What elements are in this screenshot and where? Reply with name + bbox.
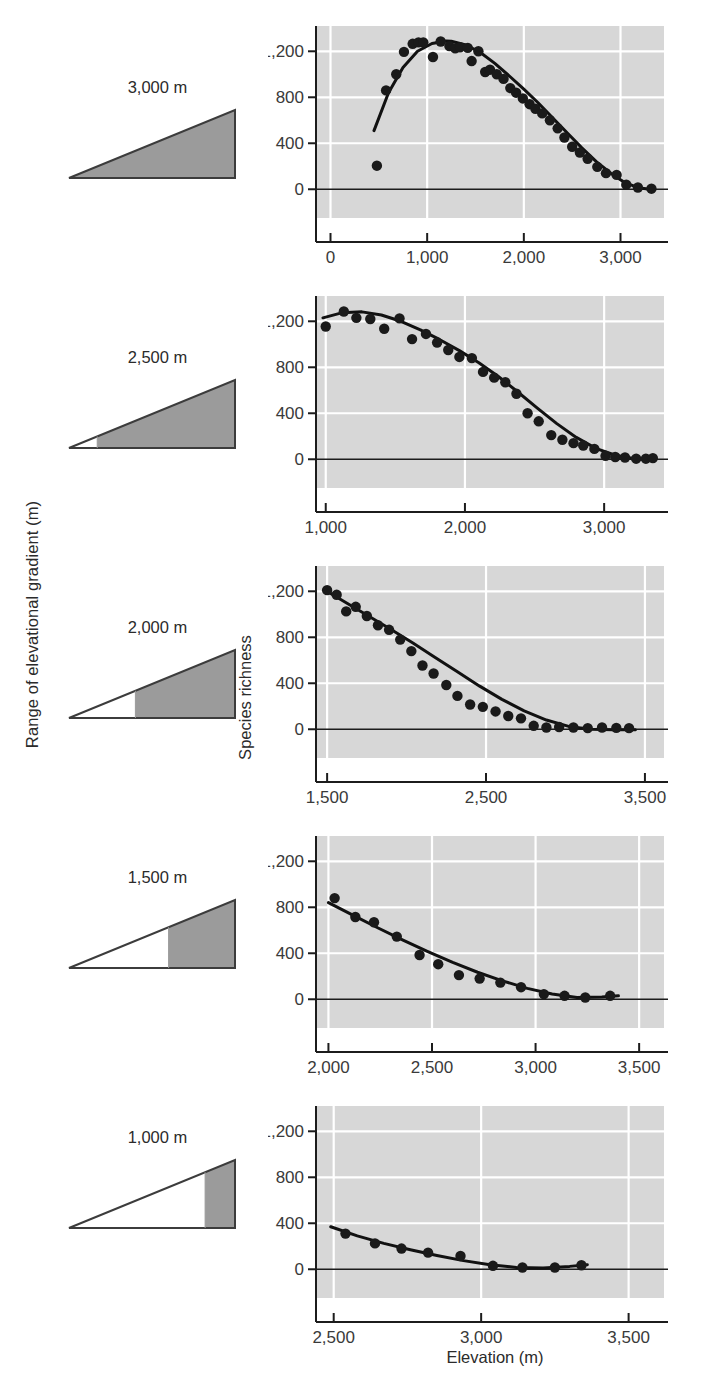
data-point bbox=[418, 37, 428, 47]
data-point bbox=[529, 721, 539, 731]
data-point bbox=[648, 453, 658, 463]
y-axis-tick-label: 0 bbox=[295, 450, 304, 469]
data-point bbox=[517, 1262, 527, 1272]
data-point bbox=[350, 912, 360, 922]
data-point bbox=[414, 950, 424, 960]
chart-panel-2000: 04008001,2001,5002,5003,500 bbox=[268, 550, 668, 808]
data-point bbox=[373, 620, 383, 630]
y-axis-tick-label: 0 bbox=[295, 1260, 304, 1279]
x-axis-tick-label: 0 bbox=[326, 248, 335, 267]
data-point bbox=[406, 646, 416, 656]
data-point bbox=[478, 702, 488, 712]
data-point bbox=[537, 108, 547, 118]
gradient-icon-1500: 1,500 m bbox=[55, 868, 260, 988]
data-point bbox=[500, 377, 510, 387]
y-axis-tick-label: 1,200 bbox=[268, 312, 304, 331]
x-axis-tick-label: 1,000 bbox=[406, 248, 449, 267]
y-axis-tick-label: 1,200 bbox=[268, 42, 304, 61]
data-point bbox=[365, 314, 375, 324]
figure-root: Range of elevational gradient (m) Specie… bbox=[0, 0, 707, 1387]
data-point bbox=[576, 1260, 586, 1270]
data-point bbox=[534, 416, 544, 426]
triangle-diagram-1500 bbox=[55, 890, 260, 980]
data-point bbox=[321, 321, 331, 331]
y-axis-tick-label: 0 bbox=[295, 720, 304, 739]
data-point bbox=[391, 69, 401, 79]
y-axis-tick-label: 400 bbox=[276, 134, 304, 153]
y-axis-tick-label: 1,200 bbox=[268, 852, 304, 871]
data-point bbox=[362, 611, 372, 621]
data-point bbox=[329, 893, 339, 903]
data-point bbox=[516, 982, 526, 992]
gradient-icon-label-1000: 1,000 m bbox=[55, 1128, 260, 1147]
x-axis-tick-label: 2,000 bbox=[503, 248, 546, 267]
data-point bbox=[351, 602, 361, 612]
data-point bbox=[516, 713, 526, 723]
x-axis-tick-label: 3,000 bbox=[599, 248, 642, 267]
gradient-icon-label-2500: 2,500 m bbox=[55, 348, 260, 367]
data-point bbox=[559, 991, 569, 1001]
data-point bbox=[407, 334, 417, 344]
data-point bbox=[392, 931, 402, 941]
data-point bbox=[340, 1228, 350, 1238]
data-point bbox=[381, 85, 391, 95]
triangle-diagram-2000 bbox=[55, 640, 260, 730]
data-point bbox=[478, 367, 488, 377]
data-point bbox=[552, 123, 562, 133]
data-point bbox=[428, 668, 438, 678]
data-point bbox=[455, 1251, 465, 1261]
data-point bbox=[582, 154, 592, 164]
x-axis-tick-label: 2,000 bbox=[307, 1058, 350, 1077]
data-point bbox=[545, 115, 555, 125]
data-point bbox=[554, 722, 564, 732]
data-point bbox=[399, 47, 409, 57]
data-point bbox=[568, 722, 578, 732]
y-axis-tick-label: 800 bbox=[276, 898, 304, 917]
data-point bbox=[592, 162, 602, 172]
x-axis-tick-label: 3,000 bbox=[460, 1328, 503, 1347]
data-point bbox=[488, 1261, 498, 1271]
gradient-icon-label-2000: 2,000 m bbox=[55, 618, 260, 637]
gradient-icon-2000: 2,000 m bbox=[55, 618, 260, 738]
data-point bbox=[441, 680, 451, 690]
data-point bbox=[550, 1262, 560, 1272]
data-point bbox=[369, 917, 379, 927]
data-point bbox=[633, 182, 643, 192]
data-point bbox=[511, 389, 521, 399]
data-point bbox=[597, 722, 607, 732]
y-axis-tick-label: 1,200 bbox=[268, 1122, 304, 1141]
data-point bbox=[465, 699, 475, 709]
data-point bbox=[583, 723, 593, 733]
data-point bbox=[631, 453, 641, 463]
gradient-icon-2500: 2,500 m bbox=[55, 348, 260, 468]
data-point bbox=[432, 337, 442, 347]
gradient-icon-1000: 1,000 m bbox=[55, 1128, 260, 1248]
gradient-icon-label-3000: 3,000 m bbox=[55, 78, 260, 97]
y-axis-tick-label: 800 bbox=[276, 628, 304, 647]
data-point bbox=[646, 183, 656, 193]
data-point bbox=[341, 606, 351, 616]
data-point bbox=[463, 43, 473, 53]
x-axis-tick-label: 3,500 bbox=[618, 1058, 661, 1077]
data-point bbox=[621, 179, 631, 189]
data-point bbox=[454, 352, 464, 362]
data-point bbox=[489, 372, 499, 382]
gradient-icon-3000: 3,000 m bbox=[55, 78, 260, 198]
data-point bbox=[370, 1238, 380, 1248]
x-axis-tick-label: 2,500 bbox=[465, 788, 508, 807]
data-point bbox=[396, 1243, 406, 1253]
x-axis-tick-label: 3,000 bbox=[583, 518, 626, 537]
data-point bbox=[557, 435, 567, 445]
data-point bbox=[539, 989, 549, 999]
data-point bbox=[568, 438, 578, 448]
data-point bbox=[417, 660, 427, 670]
data-point bbox=[331, 590, 341, 600]
data-point bbox=[541, 722, 551, 732]
data-point bbox=[610, 452, 620, 462]
data-point bbox=[454, 970, 464, 980]
chart-panel-1000: 04008001,2002,5003,0003,500 bbox=[268, 1090, 668, 1348]
data-point bbox=[443, 345, 453, 355]
data-point bbox=[384, 625, 394, 635]
x-axis-tick-label: 3,000 bbox=[514, 1058, 557, 1077]
gradient-icon-label-1500: 1,500 m bbox=[55, 868, 260, 887]
